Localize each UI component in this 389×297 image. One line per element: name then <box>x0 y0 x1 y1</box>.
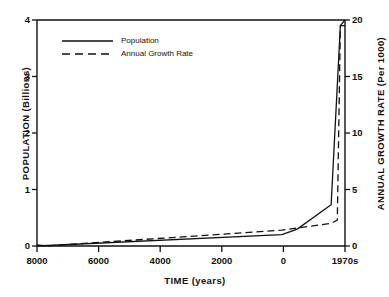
x-tick-label-2000: 2000 <box>198 255 246 266</box>
left-axis-ticks <box>32 20 37 246</box>
y-tick-label-right-15: 15 <box>352 71 372 82</box>
y-tick-label-left-0: 0 <box>16 240 30 251</box>
legend-label-population: Population <box>121 36 159 45</box>
y-tick-label-left-4: 4 <box>16 14 30 25</box>
y-tick-label-right-5: 5 <box>352 184 372 195</box>
x-tick-label-4000: 4000 <box>136 255 184 266</box>
x-axis-title: TIME (years) <box>120 275 270 286</box>
series-line-annual-growth-rate <box>37 26 345 246</box>
population-growth-chart: 0 1 2 3 4 0 5 10 15 20 8000 6000 4000 20… <box>0 0 389 297</box>
legend-label-annual-growth-rate: Annual Growth Rate <box>121 49 193 58</box>
chart-canvas <box>0 0 389 297</box>
x-axis-ticks <box>37 246 345 252</box>
y-axis-title-left: POPULATION (Billions) <box>20 39 31 209</box>
x-tick-label-0: 0 <box>259 255 307 266</box>
x-tick-label-8000: 8000 <box>13 255 61 266</box>
y-tick-label-right-0: 0 <box>352 240 372 251</box>
right-axis-ticks <box>345 20 350 246</box>
y-axis-title-right: ANNUAL GROWTH RATE (Per 1000) <box>375 29 386 219</box>
y-tick-label-right-20: 20 <box>352 14 372 25</box>
x-tick-label-6000: 6000 <box>75 255 123 266</box>
x-tick-label-1970s: 1970s <box>321 255 369 266</box>
y-tick-label-right-10: 10 <box>352 127 372 138</box>
